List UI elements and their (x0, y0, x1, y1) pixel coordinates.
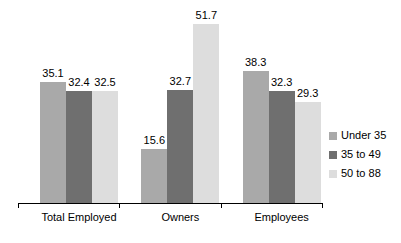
bar[interactable] (40, 82, 66, 203)
legend-item[interactable]: 35 to 49 (329, 145, 399, 164)
bar-group: 15.632.751.7 (141, 6, 219, 203)
bar-value-label: 35.1 (42, 68, 63, 79)
x-axis-category-label: Total Employed (41, 211, 116, 223)
legend-item-label: 35 to 49 (341, 149, 381, 160)
bar-value-label: 32.3 (271, 77, 292, 88)
legend-swatch-icon (329, 132, 337, 140)
bar-value-label: 32.4 (68, 77, 89, 88)
bar-value-label: 15.6 (144, 135, 165, 146)
bar-group: 35.132.432.5 (40, 6, 118, 203)
legend-item-label: 50 to 88 (341, 168, 381, 179)
x-axis-line (18, 203, 322, 204)
bar-value-label: 29.3 (297, 88, 318, 99)
bar[interactable] (141, 149, 167, 203)
x-axis-tick (18, 203, 19, 208)
bar-value-label: 32.7 (170, 76, 191, 87)
bar-value-label: 51.7 (196, 10, 217, 21)
bar[interactable] (92, 91, 118, 203)
legend-item[interactable]: 50 to 88 (329, 164, 399, 183)
x-axis-category-label: Owners (161, 211, 199, 223)
x-axis-category-label: Employees (254, 211, 308, 223)
x-axis-tick (119, 203, 120, 208)
bar-value-label: 38.3 (245, 57, 266, 68)
bar-value-label: 32.5 (94, 77, 115, 88)
chart-legend: Under 3535 to 4950 to 88 (329, 126, 399, 183)
legend-swatch-icon (329, 170, 337, 178)
bar[interactable] (167, 90, 193, 203)
plot-area: 35.132.432.515.632.751.738.332.329.3 (18, 6, 322, 203)
legend-item[interactable]: Under 35 (329, 126, 399, 145)
bar[interactable] (269, 91, 295, 203)
bar[interactable] (243, 71, 269, 203)
legend-swatch-icon (329, 151, 337, 159)
bar[interactable] (193, 24, 219, 203)
bar-group: 38.332.329.3 (243, 6, 321, 203)
x-axis-tick (322, 203, 323, 208)
bar[interactable] (66, 91, 92, 203)
bar-chart-figure: 35.132.432.515.632.751.738.332.329.3 Und… (0, 0, 401, 243)
x-axis-tick (221, 203, 222, 208)
bar[interactable] (295, 102, 321, 203)
legend-item-label: Under 35 (341, 130, 386, 141)
